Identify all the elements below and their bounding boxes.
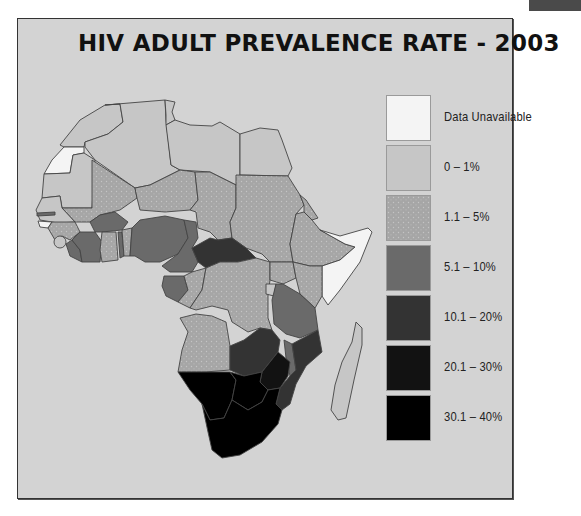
legend-item-30-40: 30.1 – 40% (386, 395, 506, 443)
legend-label: 20.1 – 30% (444, 359, 502, 374)
region-angola (178, 314, 230, 372)
legend-label: 5.1 – 10% (444, 259, 496, 274)
legend-item-data-unavailable: Data Unavailable (386, 95, 506, 143)
legend-item-10-20: 10.1 – 20% (386, 295, 506, 343)
region-sierra-leone (54, 236, 66, 248)
legend-item-20-30: 20.1 – 30% (386, 345, 506, 393)
region-ghana (100, 232, 118, 262)
legend-item-5-10: 5.1 – 10% (386, 245, 506, 293)
legend-item-0-1: 0 – 1% (386, 145, 506, 193)
region-egypt (240, 128, 292, 176)
region-madagascar (331, 322, 362, 420)
legend-label: 0 – 1% (444, 159, 480, 174)
legend-swatch (386, 395, 431, 441)
legend-swatch (386, 95, 431, 141)
legend-swatch (386, 245, 431, 291)
legend-label: 10.1 – 20% (444, 309, 502, 324)
legend-swatch (386, 145, 431, 191)
legend-item-1-5: 1.1 – 5% (386, 195, 506, 243)
legend-swatch (386, 195, 431, 241)
legend-swatch (386, 345, 431, 391)
legend-swatch (386, 295, 431, 341)
legend-label: Data Unavailable (444, 109, 532, 124)
legend-label: 30.1 – 40% (444, 409, 502, 424)
region-gambia (37, 212, 55, 216)
dot-pattern-icon (387, 196, 430, 240)
legend-label: 1.1 – 5% (444, 209, 490, 224)
region-uganda (270, 262, 296, 284)
